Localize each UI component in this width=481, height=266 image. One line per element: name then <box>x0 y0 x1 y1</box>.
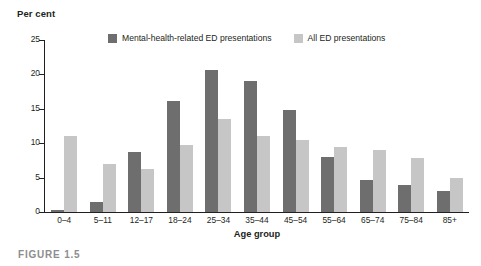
x-tick-label: 75–84 <box>392 215 431 225</box>
bar-group <box>84 40 123 212</box>
x-axis-title: Age group <box>45 229 469 239</box>
bar <box>450 178 463 212</box>
x-tick-label: 85+ <box>430 215 469 225</box>
figure-container: Per cent Mental-health-related ED presen… <box>0 0 481 266</box>
bars-layer <box>45 40 469 212</box>
x-tick-label: 35–44 <box>238 215 277 225</box>
x-tick-label: 0–4 <box>45 215 84 225</box>
bar <box>103 164 116 212</box>
x-axis-line <box>44 212 469 213</box>
bar <box>218 119 231 212</box>
bar-group <box>392 40 431 212</box>
y-axis-title: Per cent <box>17 8 55 19</box>
bar <box>321 157 334 212</box>
y-tick-label: 0 <box>35 206 40 216</box>
bar <box>296 140 309 212</box>
bar <box>51 210 64 212</box>
bar <box>257 136 270 212</box>
bar <box>398 185 411 212</box>
x-tick-label: 55–64 <box>315 215 354 225</box>
y-tick-label: 20 <box>31 68 40 78</box>
bar <box>437 191 450 212</box>
x-tick-label: 45–54 <box>276 215 315 225</box>
bar <box>205 70 218 212</box>
x-tick-label: 5–11 <box>84 215 123 225</box>
bar <box>373 150 386 212</box>
bar <box>128 152 141 212</box>
bar <box>244 81 257 212</box>
x-tick-label: 65–74 <box>353 215 392 225</box>
x-tick-label: 18–24 <box>161 215 200 225</box>
bar <box>90 202 103 212</box>
plot-area: 0510152025 <box>44 40 469 212</box>
bar <box>283 110 296 213</box>
bar-group <box>276 40 315 212</box>
bar <box>360 180 373 212</box>
bar-group <box>161 40 200 212</box>
bar-group <box>199 40 238 212</box>
bar-group <box>315 40 354 212</box>
bar-group <box>353 40 392 212</box>
bar-group <box>430 40 469 212</box>
x-tick-label: 12–17 <box>122 215 161 225</box>
bar <box>167 101 180 212</box>
bar <box>411 158 424 212</box>
bar <box>141 169 154 212</box>
figure-caption: FIGURE 1.5 <box>18 249 80 260</box>
x-tick-label: 25–34 <box>199 215 238 225</box>
bar <box>64 136 77 212</box>
bar-group <box>122 40 161 212</box>
y-tick-label: 10 <box>31 137 40 147</box>
x-axis-tick-labels: 0–45–1112–1718–2425–3435–4445–5455–6465–… <box>45 215 469 225</box>
y-tick-label: 5 <box>35 172 40 182</box>
bar-group <box>238 40 277 212</box>
bar-group <box>45 40 84 212</box>
y-tick-label: 25 <box>31 34 40 44</box>
bar <box>180 145 193 212</box>
bar <box>334 147 347 212</box>
y-tick-label: 15 <box>31 103 40 113</box>
